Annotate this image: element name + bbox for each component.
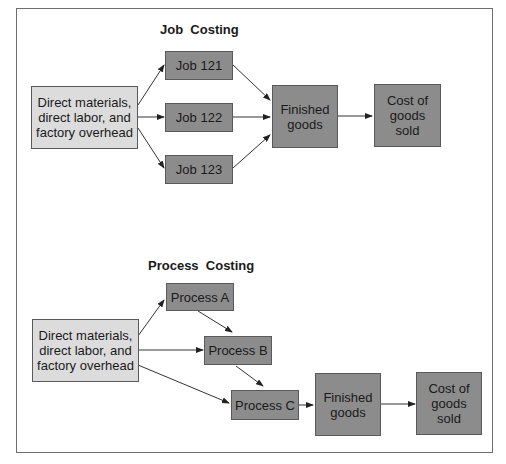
job-costing-title: Job Costing (160, 22, 239, 37)
process-c-box: Process C (231, 390, 299, 420)
job-inputs-box: Direct materials, direct labor, and fact… (31, 86, 138, 149)
process-finished-goods-box: Finished goods (315, 373, 381, 436)
job-123-box: Job 123 (165, 155, 233, 184)
process-cogs-box: Cost of goods sold (416, 372, 482, 435)
job-finished-goods-box: Finished goods (272, 85, 338, 148)
process-a-box: Process A (166, 283, 234, 311)
process-costing-title: Process Costing (148, 258, 254, 273)
process-b-box: Process B (204, 336, 272, 365)
job-cogs-box: Cost of goods sold (374, 84, 441, 147)
process-inputs-box: Direct materials, direct labor, and fact… (32, 319, 139, 382)
job-121-box: Job 121 (165, 51, 233, 80)
job-122-box: Job 122 (165, 103, 233, 132)
